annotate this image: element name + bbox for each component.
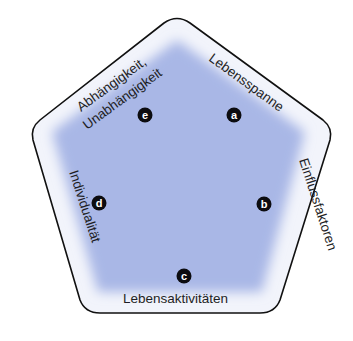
pentagon-diagram: Lebensspanne Abhängigkeit, Unabhängigkei…	[0, 0, 353, 341]
marker-e: e	[138, 108, 153, 123]
pentagon-shape	[32, 19, 330, 314]
marker-a: a	[227, 108, 242, 123]
marker-e-letter: e	[142, 109, 148, 121]
marker-b: b	[257, 197, 272, 212]
marker-d: d	[92, 196, 107, 211]
marker-c-letter: c	[181, 270, 187, 282]
label-lebensaktivitaeten: Lebensaktivitäten	[123, 291, 228, 306]
marker-d-letter: d	[96, 197, 103, 209]
marker-b-letter: b	[261, 198, 268, 210]
marker-c: c	[177, 269, 192, 284]
marker-a-letter: a	[231, 109, 238, 121]
